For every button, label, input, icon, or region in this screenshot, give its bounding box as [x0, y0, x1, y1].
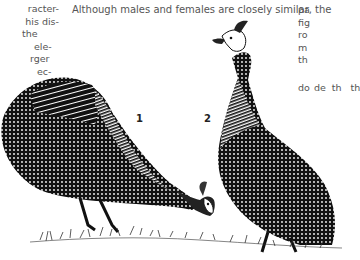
- text-line: th: [345, 82, 360, 93]
- guineafowl-1-icon: [1, 78, 214, 232]
- guineafowl-2-icon: [212, 21, 335, 252]
- figure-label-2: 2: [204, 113, 211, 124]
- figure-label-1: 1: [136, 113, 143, 124]
